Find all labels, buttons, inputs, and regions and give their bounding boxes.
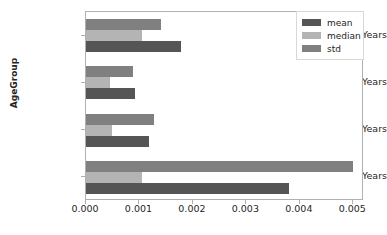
legend-label: median (327, 31, 361, 41)
x-tick-mark (192, 200, 193, 204)
bar-std (86, 66, 133, 77)
bar-mean (86, 41, 181, 52)
legend-label: mean (327, 18, 353, 28)
legend-label: std (327, 44, 341, 54)
bar-mean (86, 183, 289, 194)
legend-swatch-mean (302, 19, 321, 26)
bar-std (86, 161, 353, 172)
x-tick-mark (245, 200, 246, 204)
legend-item-std: std (302, 42, 359, 55)
x-tick-label: 0.003 (223, 203, 267, 214)
legend-swatch-median (302, 32, 321, 39)
bar-median (86, 125, 112, 136)
chart-legend: meanmedianstd (296, 11, 364, 60)
bar-median (86, 77, 110, 88)
x-tick-mark (85, 200, 86, 204)
bar-mean (86, 88, 135, 99)
legend-item-median: median (302, 29, 359, 42)
bar-mean (86, 136, 149, 147)
bar-median (86, 30, 142, 41)
legend-item-mean: mean (302, 16, 359, 29)
legend-swatch-std (302, 45, 321, 52)
x-tick-mark (138, 200, 139, 204)
bar-std (86, 114, 154, 125)
x-tick-label: 0.002 (170, 203, 214, 214)
x-tick-label: 0.001 (116, 203, 160, 214)
x-tick-label: 0.004 (277, 203, 321, 214)
y-axis-label: AgeGroup (9, 53, 19, 113)
bar-std (86, 19, 161, 30)
x-tick-mark (299, 200, 300, 204)
bar-chart-figure: AgeGroup 15-19 Years10-14 Years05-09 Yea… (0, 0, 387, 235)
bar-median (86, 172, 142, 183)
x-tick-label: 0.005 (330, 203, 374, 214)
x-tick-label: 0.000 (63, 203, 107, 214)
x-tick-mark (352, 200, 353, 204)
